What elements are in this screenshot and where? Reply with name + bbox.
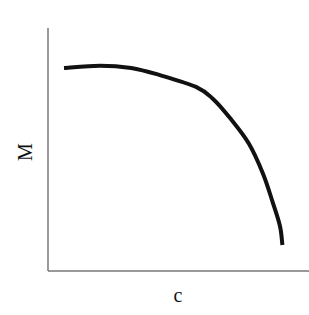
- data-curve: [64, 66, 282, 245]
- y-axis-label: M: [14, 143, 36, 161]
- x-axis-label: c: [174, 284, 183, 306]
- chart: c M: [0, 0, 309, 315]
